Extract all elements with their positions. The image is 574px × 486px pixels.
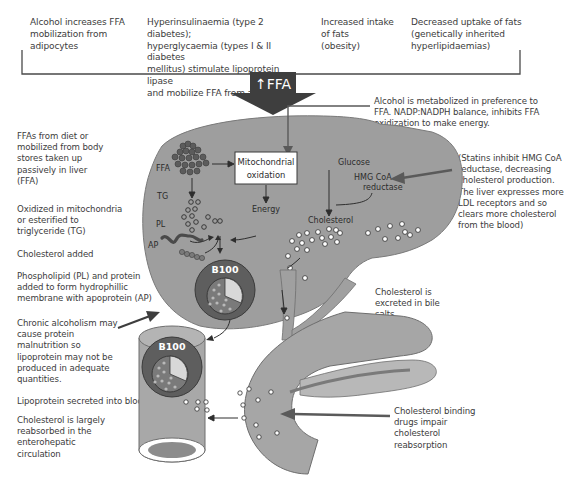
mito-label: oxidation [247,170,286,180]
hmg-coa-label: reductase [363,183,403,192]
binding-drugs-arrow [280,408,390,420]
ffa-arrow-label: ↑FFA [255,76,292,92]
bile-cholesterol-droplet-icon [285,316,289,320]
ap-label: AP [148,241,158,250]
lipoprotein-b100-vessel: B100 [142,337,202,397]
cholesterol-label: Cholesterol [308,216,353,225]
ffa-increase-arrow: ↑FFA [230,72,316,115]
mito-label: Mitochondrial [238,157,295,167]
reabsorption-arrow [208,415,238,421]
mitochondrial-oxidation-box: Mitochondrial oxidation [235,152,297,184]
ffa-label: FFA [156,164,170,173]
b100-label: B100 [158,341,185,352]
top-bracket [22,50,520,74]
tg-label: TG [156,192,168,201]
pl-label: PL [156,220,166,229]
b100-label: B100 [211,264,238,275]
liver-lipid-diagram: ↑FFA Mitochondrial oxidation FFA Energy … [0,0,574,486]
hmg-coa-label: HMG CoA [354,173,392,182]
glucose-label: Glucose [338,158,370,167]
chronic-alcoholism-arrow [118,311,160,328]
lipoprotein-b100-liver: B100 [195,260,255,320]
energy-label: Energy [252,205,280,214]
